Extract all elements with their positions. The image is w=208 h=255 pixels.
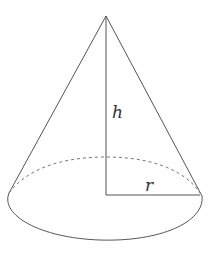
height-label: h xyxy=(112,102,123,122)
base-ellipse-front xyxy=(8,193,202,240)
cone-diagram: h r xyxy=(0,0,208,255)
cone-figure: h r xyxy=(0,0,208,255)
radius-label: r xyxy=(145,175,154,195)
left-slant-edge xyxy=(9,16,106,193)
